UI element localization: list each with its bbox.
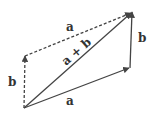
vector-parallelogram-diagram: a a b b a + b bbox=[0, 0, 150, 117]
vector-sum bbox=[24, 13, 131, 108]
label-bottom-a: a bbox=[66, 94, 74, 108]
vector-b-dashed bbox=[24, 56, 25, 108]
vector-a bbox=[24, 68, 129, 108]
label-top-a: a bbox=[66, 20, 74, 34]
label-right-b: b bbox=[138, 31, 146, 45]
vector-b bbox=[130, 12, 132, 68]
label-left-b: b bbox=[8, 75, 16, 89]
